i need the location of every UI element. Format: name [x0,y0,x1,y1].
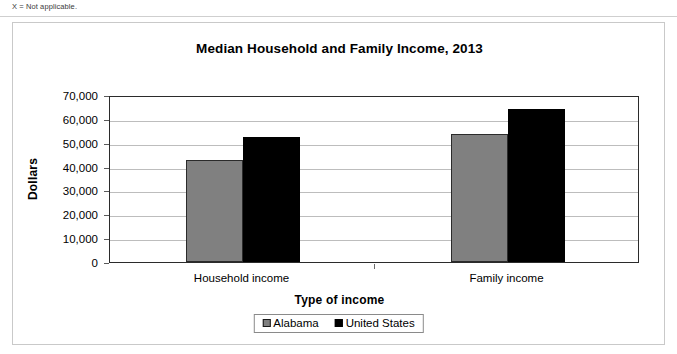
legend-item-alabama: Alabama [262,317,318,329]
y-axis-tick-label: 60,000 [63,114,98,126]
x-axis-tick-mark [374,264,375,269]
chart-legend: Alabama United States [253,314,423,333]
legend-item-united-states: United States [335,317,415,329]
chart-panel: Median Household and Family Income, 2013… [12,22,665,345]
x-axis-category-label: Household income [194,272,289,284]
y-axis-title: Dollars [26,158,40,200]
header-divider [0,16,677,17]
chart-title: Median Household and Family Income, 2013 [13,41,666,56]
legend-label-alabama: Alabama [273,317,318,329]
bar-alabama-household-income [186,160,243,262]
x-axis-category-label: Family income [469,272,543,284]
bar-united-states-family-income [508,109,565,262]
y-axis-tick-label: 10,000 [63,233,98,245]
legend-label-united-states: United States [346,317,415,329]
y-axis-tick-label: 20,000 [63,209,98,221]
y-axis-tick-label: 40,000 [63,162,98,174]
legend-swatch-united-states [335,319,343,327]
y-axis-tick-label: 0 [92,257,98,269]
legend-swatch-alabama [262,319,270,327]
y-axis-tick-label: 70,000 [63,90,98,102]
bar-united-states-household-income [243,137,300,262]
y-axis-tick-mark [104,263,109,264]
y-axis-tick-label: 30,000 [63,185,98,197]
bar-alabama-family-income [451,134,508,262]
x-axis-title: Type of income [13,293,666,307]
y-axis-tick-label: 50,000 [63,138,98,150]
plot-area [109,96,639,263]
footnote-not-applicable: X = Not applicable. [12,2,77,11]
